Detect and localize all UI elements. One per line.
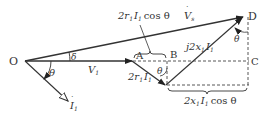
- theta-arc-d: [235, 28, 248, 32]
- vs-dot: ·: [186, 2, 189, 11]
- point-d-label: D: [248, 10, 257, 23]
- i1-phasor: [25, 61, 68, 101]
- point-b-label: B: [170, 49, 177, 60]
- resistive-cos-label: 2r1I1cos θ: [117, 10, 170, 22]
- i1-dot: ·: [71, 92, 74, 101]
- point-a-label: A: [135, 50, 144, 61]
- point-c-label: C: [251, 56, 259, 67]
- reactive-cos-label: 2x1I1cos θ: [183, 95, 237, 107]
- theta-d-label: θ: [234, 34, 240, 44]
- v1-label: V1: [88, 64, 99, 76]
- vs-label: Vs: [184, 10, 194, 22]
- theta-origin-label: θ: [49, 67, 55, 78]
- theta-b-label: θ: [157, 66, 163, 76]
- i1-label: I1: [69, 100, 78, 112]
- delta-arc: [69, 52, 70, 61]
- reactive-drop-label: j2x1I1: [184, 41, 214, 53]
- vs-phasor: [25, 17, 243, 61]
- phasor-diagram: O A B C D V1 Vs · I1 · θ δ θ θ 2r1I1cos …: [0, 0, 263, 117]
- delta-label: δ: [71, 52, 76, 62]
- brace-bottom: [168, 88, 247, 94]
- point-o-label: O: [9, 55, 18, 68]
